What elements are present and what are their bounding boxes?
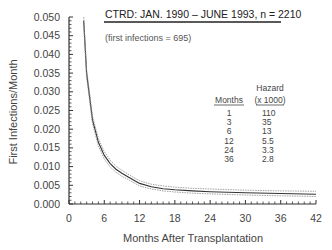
x-tick-label: 24 xyxy=(204,212,216,224)
x-tick-label: 12 xyxy=(134,212,146,224)
x-tick-label: 30 xyxy=(240,212,252,224)
x-axis-title: Months After Transplantation xyxy=(123,232,263,244)
y-axis-ticks: 0.0000.0050.0100.0150.0200.0250.0300.035… xyxy=(34,11,73,210)
y-tick-label: 0.010 xyxy=(34,160,60,172)
x-tick-label: 42 xyxy=(310,212,322,224)
x-tick-label: 6 xyxy=(101,212,107,224)
table-cell-months: 36 xyxy=(224,154,234,164)
table-header-hazard: Hazard xyxy=(256,83,284,93)
hazard-chart: 0.0000.0050.0100.0150.0200.0250.0300.035… xyxy=(0,0,332,250)
chart-title: CTRD: JAN. 1990 – JUNE 1993, n = 2210 xyxy=(105,8,302,20)
table-cell-hazard: 2.8 xyxy=(262,154,274,164)
chart-subtitle: (first infections = 695) xyxy=(105,33,191,43)
table-header-units: (x 1000) xyxy=(254,95,285,105)
y-tick-label: 0.030 xyxy=(34,85,60,97)
hazard-curves xyxy=(84,17,316,197)
x-tick-label: 18 xyxy=(169,212,181,224)
y-tick-label: 0.050 xyxy=(34,11,60,23)
y-tick-label: 0.040 xyxy=(34,48,60,60)
y-tick-label: 0.015 xyxy=(34,141,60,153)
x-tick-label: 0 xyxy=(66,212,72,224)
x-tick-label: 36 xyxy=(275,212,287,224)
hazard-curve xyxy=(84,21,316,195)
y-tick-label: 0.020 xyxy=(34,123,60,135)
y-tick-label: 0.035 xyxy=(34,67,60,79)
y-axis-title: First Infections/Month xyxy=(7,59,19,164)
hazard-table: Hazard Months (x 1000) 1110335613125.524… xyxy=(214,83,286,164)
y-tick-label: 0.000 xyxy=(34,198,60,210)
y-tick-label: 0.025 xyxy=(34,104,60,116)
table-header-months: Months xyxy=(215,95,243,105)
y-tick-label: 0.045 xyxy=(34,29,60,41)
y-tick-label: 0.005 xyxy=(34,179,60,191)
